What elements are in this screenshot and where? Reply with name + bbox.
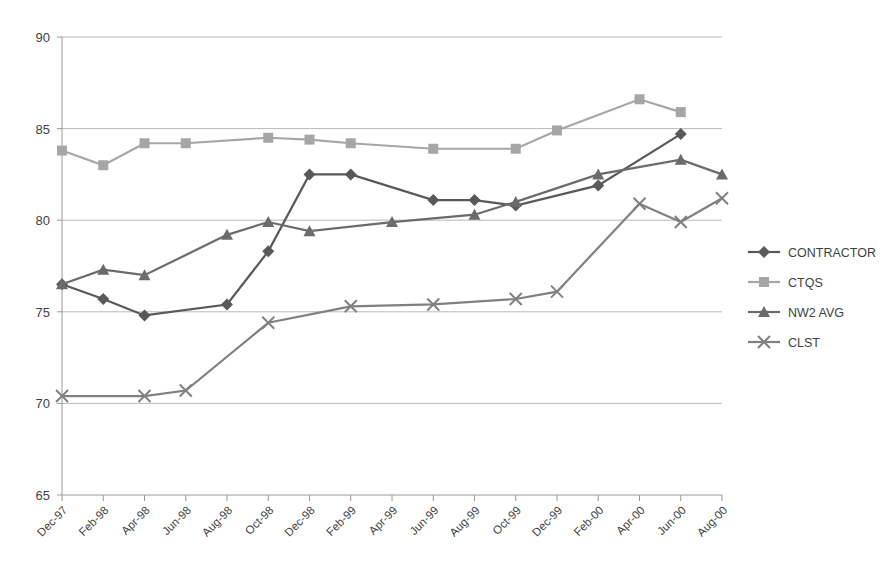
legend-label: NW2 AVG xyxy=(788,306,844,320)
series-marker-3 xyxy=(181,138,191,148)
y-tick-label-65: 65 xyxy=(36,488,50,503)
series-marker-11 xyxy=(676,107,686,117)
legend-marker xyxy=(759,277,769,287)
chart-canvas: 657075808590 Dec-97Feb-98Apr-98Jun-98Aug… xyxy=(0,0,895,583)
series-marker-8 xyxy=(511,144,521,154)
series-marker-4 xyxy=(263,133,273,143)
series-marker-10 xyxy=(635,94,645,104)
legend-label: CONTRACTOR xyxy=(788,246,876,260)
legend-label: CTQS xyxy=(788,276,823,290)
y-tick-label-90: 90 xyxy=(36,30,50,45)
series-marker-9 xyxy=(552,125,562,135)
series-marker-1 xyxy=(98,160,108,170)
chart-background xyxy=(0,0,895,583)
line-chart: 657075808590 Dec-97Feb-98Apr-98Jun-98Aug… xyxy=(0,0,895,583)
y-tick-label-75: 75 xyxy=(36,305,50,320)
series-marker-6 xyxy=(346,138,356,148)
series-marker-5 xyxy=(305,135,315,145)
series-marker-2 xyxy=(140,138,150,148)
series-marker-0 xyxy=(57,146,67,156)
y-tick-label-70: 70 xyxy=(36,396,50,411)
series-marker-7 xyxy=(428,144,438,154)
legend-label: CLST xyxy=(788,336,820,350)
y-tick-label-80: 80 xyxy=(36,213,50,228)
y-tick-label-85: 85 xyxy=(36,122,50,137)
